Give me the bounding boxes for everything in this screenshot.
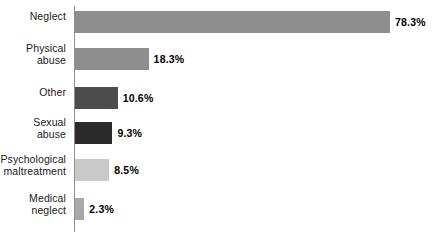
bar-other bbox=[75, 87, 118, 109]
value-label-medical-neglect: 2.3% bbox=[89, 203, 114, 215]
category-label-psychological-maltreatment: Psychological maltreatment bbox=[0, 154, 66, 177]
bar-psychological-maltreatment bbox=[75, 159, 109, 181]
category-label-physical-abuse: Physical abuse bbox=[0, 43, 66, 66]
bar-row: Medical neglect 2.3% bbox=[0, 198, 433, 220]
category-label-neglect: Neglect bbox=[0, 11, 66, 23]
bar-row: Neglect 78.3% bbox=[0, 11, 433, 33]
bar-sexual-abuse bbox=[75, 122, 112, 144]
value-label-other: 10.6% bbox=[123, 92, 154, 104]
bar-medical-neglect bbox=[75, 198, 84, 220]
bar-neglect bbox=[75, 11, 390, 33]
bar-row: Sexual abuse 9.3% bbox=[0, 122, 433, 144]
category-label-medical-neglect: Medical neglect bbox=[0, 193, 66, 216]
value-label-neglect: 78.3% bbox=[395, 16, 426, 28]
category-label-sexual-abuse: Sexual abuse bbox=[0, 117, 66, 140]
category-label-other: Other bbox=[0, 87, 66, 99]
bar-chart: Neglect 78.3% Physical abuse 18.3% Other… bbox=[0, 0, 433, 238]
bar-row: Psychological maltreatment 8.5% bbox=[0, 159, 433, 181]
value-label-sexual-abuse: 9.3% bbox=[117, 127, 142, 139]
value-label-physical-abuse: 18.3% bbox=[154, 53, 185, 65]
value-label-psychological-maltreatment: 8.5% bbox=[114, 164, 139, 176]
bar-row: Physical abuse 18.3% bbox=[0, 48, 433, 70]
bar-row: Other 10.6% bbox=[0, 87, 433, 109]
bar-physical-abuse bbox=[75, 48, 149, 70]
